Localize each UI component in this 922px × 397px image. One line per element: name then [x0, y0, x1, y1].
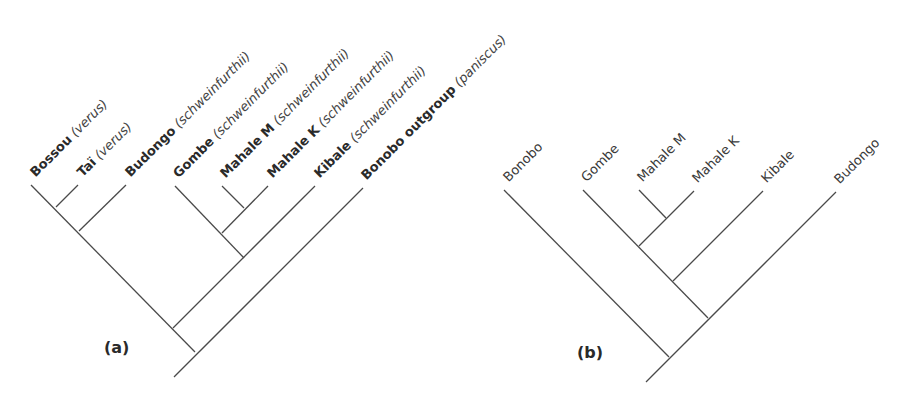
phylogeny-figure: Bossou (verus) Taï (verus) Budongo (schw…: [0, 0, 922, 397]
branch-budongo: [79, 185, 126, 231]
panel-label-b: (b): [577, 343, 603, 362]
tree-a-branches: [31, 185, 363, 377]
branch-b-gombe: [583, 190, 708, 318]
branch-mahale-m: [222, 186, 244, 208]
branch-b-kibale: [673, 191, 763, 281]
tree-lines: [0, 0, 922, 397]
branch-tai: [56, 185, 78, 207]
branch-b-bonobo: [504, 190, 669, 357]
branch-b-budongo: [646, 192, 836, 382]
branch-bonobo-outgroup: [174, 188, 363, 377]
branch-b-mahale-m: [639, 190, 666, 218]
panel-label-a: (a): [104, 338, 129, 357]
branch-bossou-to-root: [31, 185, 195, 352]
tree-b-branches: [504, 190, 836, 382]
